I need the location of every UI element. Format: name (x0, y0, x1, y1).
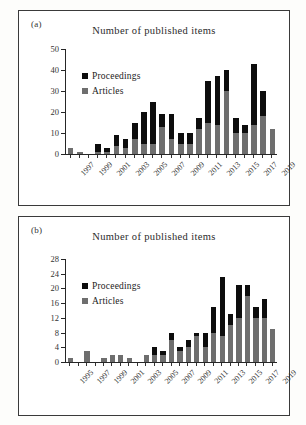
x-tick-label: 1999 (97, 160, 115, 178)
bar-segment-proceedings (211, 307, 216, 333)
bar-1995 (68, 358, 73, 362)
y-tick (61, 347, 65, 348)
bar-segment-articles (203, 347, 208, 362)
bar-2003 (123, 139, 129, 154)
bar-2001 (104, 148, 110, 154)
x-tick-label: 1995 (78, 368, 96, 386)
y-tick (61, 49, 65, 50)
figure-container: (a) Number of published items Proceeding… (0, 0, 306, 425)
x-tick (272, 363, 273, 366)
y-tick (61, 274, 65, 275)
chart-panel-b: (b) Number of published items Proceeding… (18, 216, 290, 416)
bar-segment-articles (169, 139, 175, 154)
y-tick-label: 10 (51, 129, 60, 138)
x-tick (207, 155, 208, 158)
bar-segment-proceedings (262, 299, 267, 317)
bar-segment-proceedings (150, 102, 156, 144)
bar-2014 (228, 314, 233, 362)
bar-segment-proceedings (186, 340, 191, 347)
bar-segment-articles (262, 318, 267, 362)
x-tick (152, 155, 153, 158)
bar-segment-proceedings (196, 118, 202, 129)
bar-segment-articles (68, 148, 74, 154)
bar-group-b (66, 259, 277, 362)
bar-segment-articles (220, 336, 225, 362)
bar-segment-articles (187, 144, 193, 155)
bar-segment-proceedings (228, 314, 233, 325)
x-tick (69, 363, 70, 366)
x-tick-label: 1997 (78, 160, 96, 178)
bar-2016 (245, 285, 250, 362)
bar-1997 (84, 351, 89, 362)
y-tick (61, 70, 65, 71)
bar-segment-articles (141, 144, 147, 155)
y-tick-label: 50 (51, 45, 60, 54)
x-tick-label: 2015 (247, 368, 265, 386)
x-tick-label: 2019 (280, 368, 298, 386)
x-tick (78, 363, 79, 366)
bar-2004 (132, 123, 138, 154)
plot-area-a: 01020304050 1997199920012003200520072009… (65, 49, 277, 155)
bar-segment-articles (178, 144, 184, 155)
bar-segment-articles (224, 91, 230, 154)
bar-segment-articles (104, 152, 110, 154)
bar-segment-proceedings (233, 118, 239, 133)
x-tick (271, 155, 272, 158)
bar-segment-proceedings (260, 91, 266, 116)
x-tick (70, 155, 71, 158)
bar-segment-articles (118, 355, 123, 362)
bar-segment-proceedings (215, 76, 221, 124)
x-tick (162, 363, 163, 366)
x-tick (120, 363, 121, 366)
bar-segment-articles (228, 325, 233, 362)
x-tick (230, 363, 231, 366)
bar-segment-articles (159, 127, 165, 154)
x-tick (204, 363, 205, 366)
x-tick (128, 363, 129, 366)
bar-2015 (233, 118, 239, 154)
plot-area-b: 0481216202428 19951997199920012003200520… (65, 259, 277, 363)
bar-2013 (215, 76, 221, 154)
bar-2017 (253, 307, 258, 362)
x-tick (198, 155, 199, 158)
x-tick (145, 363, 146, 366)
bar-segment-articles (242, 133, 248, 154)
bar-2006 (160, 351, 165, 362)
bar-2005 (141, 112, 147, 154)
bar-segment-articles (194, 336, 199, 362)
bar-segment-articles (270, 129, 276, 154)
x-tick (196, 363, 197, 366)
bar-2011 (196, 118, 202, 154)
y-tick-label: 0 (55, 358, 59, 367)
y-tick (61, 259, 65, 260)
x-tick (216, 155, 217, 158)
x-tick (111, 363, 112, 366)
bar-2000 (95, 144, 101, 154)
y-tick-label: 16 (51, 299, 60, 308)
x-tick (226, 155, 227, 158)
chart-title-b: Number of published items (19, 231, 289, 242)
bar-2019 (270, 329, 275, 362)
x-tick-label: 2009 (196, 368, 214, 386)
bar-segment-articles (101, 358, 106, 362)
bar-2007 (159, 114, 165, 154)
bar-2014 (224, 70, 230, 154)
x-tick (179, 363, 180, 366)
bar-2008 (169, 114, 175, 154)
bar-segment-proceedings (236, 285, 241, 318)
bar-segment-articles (233, 133, 239, 154)
x-tick (262, 155, 263, 158)
x-tick (106, 155, 107, 158)
bar-segment-articles (68, 358, 73, 362)
bar-segment-articles (123, 148, 129, 154)
bar-segment-proceedings (242, 125, 248, 133)
y-tick-label: 28 (51, 255, 60, 264)
x-tick (137, 363, 138, 366)
x-tick-label: 2015 (243, 160, 261, 178)
y-tick (61, 133, 65, 134)
bar-2010 (194, 333, 199, 362)
x-tick (134, 155, 135, 158)
bar-segment-proceedings (95, 144, 101, 152)
bar-segment-proceedings (123, 139, 129, 147)
bar-2012 (211, 307, 216, 362)
